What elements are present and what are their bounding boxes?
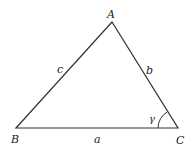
vertex-label-b: B — [10, 133, 19, 146]
vertex-label-c: C — [176, 134, 185, 147]
side-label-c: c — [57, 63, 63, 76]
vertex-label-a: A — [106, 8, 115, 21]
angle-gamma-arc — [158, 112, 167, 128]
triangle-diagram: A B C a b c γ — [0, 0, 195, 149]
angle-label-gamma: γ — [149, 113, 155, 124]
side-label-a: a — [94, 133, 101, 146]
side-label-b: b — [146, 64, 153, 77]
